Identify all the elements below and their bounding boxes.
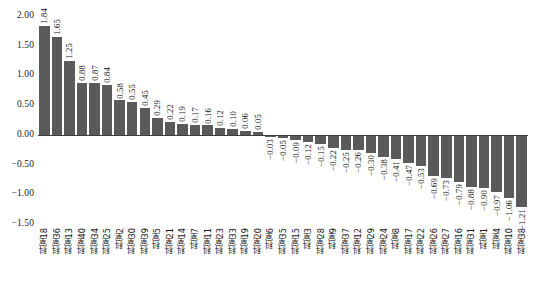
x-label-slot: 科室11: [201, 228, 214, 278]
bar-slot: −0.53: [415, 16, 428, 224]
x-label-slot: 科室31: [465, 228, 478, 278]
bar-series: 1.841.651.250.880.870.840.580.550.450.29…: [38, 16, 528, 224]
bar-value-label: 0.84: [103, 67, 112, 83]
bar-value-label: −0.30: [367, 155, 376, 176]
bar-slot: 1.65: [51, 16, 64, 224]
x-tick-label: 科室11: [204, 228, 212, 254]
bar-value-label: 0.58: [115, 83, 124, 99]
x-label-slot: 科室13: [63, 228, 76, 278]
x-tick-label: 科室13: [65, 228, 73, 254]
x-tick-label: 科室18: [40, 228, 48, 254]
x-tick-label: 科室5: [153, 228, 161, 249]
bar[interactable]: [353, 135, 364, 150]
bar[interactable]: [140, 108, 151, 135]
bar-value-label: −0.25: [342, 152, 351, 173]
x-tick-label: 科室20: [254, 228, 262, 254]
bar[interactable]: [428, 135, 439, 176]
bar[interactable]: [328, 135, 339, 148]
bar-slot: 0.12: [214, 16, 227, 224]
bar-value-label: 0.16: [203, 108, 212, 124]
plot-area: 1.841.651.250.880.870.840.580.550.450.29…: [38, 16, 528, 224]
bar[interactable]: [39, 26, 50, 135]
x-tick-label: 科室14: [178, 228, 186, 254]
x-label-slot: 科室2: [113, 228, 126, 278]
x-label-slot: 科室12: [352, 228, 365, 278]
bar[interactable]: [416, 135, 427, 166]
x-tick-label: 科室2: [116, 228, 124, 249]
bar-slot: −0.26: [352, 16, 365, 224]
x-label-slot: 科室19: [239, 228, 252, 278]
bar-value-label: 0.06: [241, 113, 250, 129]
bar-value-label: −0.26: [354, 152, 363, 173]
bar-value-label: −0.73: [442, 180, 451, 201]
bar-value-label: 0.88: [78, 65, 87, 81]
bar[interactable]: [341, 135, 352, 150]
y-tick-label: 1.50: [17, 41, 34, 51]
bar[interactable]: [64, 61, 75, 135]
x-tick-label: 科室36: [53, 228, 61, 254]
bar-slot: −0.22: [327, 16, 340, 224]
bar-slot: −0.09: [289, 16, 302, 224]
x-tick-label: 科室27: [442, 228, 450, 254]
bar-slot: −0.97: [490, 16, 503, 224]
bar-value-label: −0.09: [291, 142, 300, 163]
y-axis: 2.001.501.000.500.00−0.50−1.00−1.50: [0, 16, 34, 224]
y-tick-label: 1.00: [17, 71, 34, 81]
x-label-slot: 科室28: [314, 228, 327, 278]
bar[interactable]: [165, 122, 176, 135]
bar-value-label: −0.79: [455, 184, 464, 205]
bar[interactable]: [479, 135, 490, 188]
x-label-slot: 科室36: [51, 228, 64, 278]
bar-slot: 0.55: [126, 16, 139, 224]
x-axis-category-labels: 科室18科室36科室13科室40科室34科室25科室2科室30科室39科室5科室…: [38, 228, 528, 278]
bar[interactable]: [466, 135, 477, 187]
bar[interactable]: [454, 135, 465, 182]
x-tick-label: 科室24: [379, 228, 387, 254]
bar[interactable]: [366, 135, 377, 153]
x-label-slot: 科室16: [453, 228, 466, 278]
bar-slot: −0.03: [264, 16, 277, 224]
x-tick-label: 科室22: [417, 228, 425, 254]
bar-slot: −1.06: [503, 16, 516, 224]
bar[interactable]: [89, 83, 100, 135]
bar[interactable]: [391, 135, 402, 159]
bar-slot: 0.88: [76, 16, 89, 224]
bar[interactable]: [52, 37, 63, 135]
bar[interactable]: [516, 135, 527, 207]
bar[interactable]: [491, 135, 502, 193]
bar[interactable]: [127, 102, 138, 135]
bar-value-label: −1.21: [517, 209, 526, 230]
bar-value-label: −0.88: [467, 189, 476, 210]
x-tick-label: 科室4: [492, 228, 500, 249]
bar[interactable]: [202, 125, 213, 135]
bar[interactable]: [403, 135, 414, 163]
bar[interactable]: [215, 128, 226, 135]
bar[interactable]: [102, 85, 113, 135]
bar[interactable]: [504, 135, 515, 198]
bar-value-label: 0.22: [166, 104, 175, 120]
bar-slot: 0.84: [101, 16, 114, 224]
bar-slot: 0.19: [176, 16, 189, 224]
x-tick-label: 科室28: [317, 228, 325, 254]
bar-value-label: −0.69: [429, 178, 438, 199]
bar-value-label: −0.47: [404, 165, 413, 186]
x-label-slot: 科室1: [478, 228, 491, 278]
bar[interactable]: [441, 135, 452, 178]
x-label-slot: 科室3: [302, 228, 315, 278]
x-label-slot: 科室4: [490, 228, 503, 278]
bar[interactable]: [77, 83, 88, 135]
bar[interactable]: [114, 100, 125, 134]
x-tick-label: 科室23: [216, 228, 224, 254]
x-tick-label: 科室26: [430, 228, 438, 254]
x-tick-label: 科室12: [354, 228, 362, 254]
y-tick-label: −0.50: [12, 160, 34, 170]
x-tick-label: 科室1: [480, 228, 488, 249]
bar[interactable]: [190, 125, 201, 135]
x-label-slot: 科室40: [76, 228, 89, 278]
bar[interactable]: [177, 124, 188, 135]
bar[interactable]: [152, 118, 163, 135]
x-tick-label: 科室6: [266, 228, 274, 249]
bar[interactable]: [378, 135, 389, 158]
bar-slot: 0.06: [239, 16, 252, 224]
bar-chart-figure: 2.001.501.000.500.00−0.50−1.00−1.50 1.84…: [0, 0, 534, 290]
